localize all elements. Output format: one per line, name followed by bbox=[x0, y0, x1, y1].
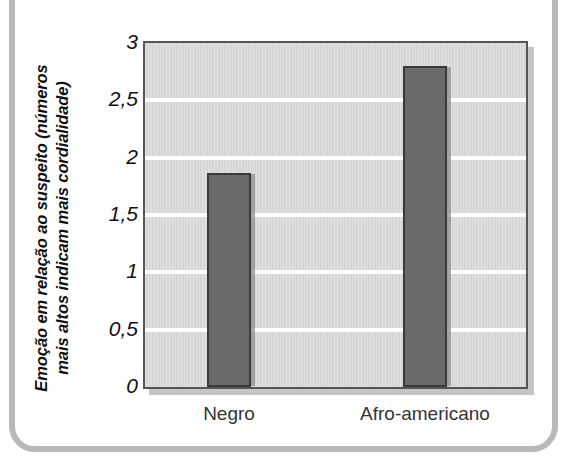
y-tick-label: 0 bbox=[92, 375, 138, 396]
x-tick-label-afro-americano: Afro-americano bbox=[360, 404, 490, 423]
x-tick-label-negro: Negro bbox=[203, 404, 255, 423]
y-tick-label: 3 bbox=[92, 31, 138, 52]
gridline-2-5 bbox=[145, 98, 526, 102]
y-axis-title-line-1: Emoção em relação ao suspeito (números bbox=[31, 64, 52, 391]
gridline-1 bbox=[145, 270, 526, 274]
y-tick-label: 2 bbox=[92, 145, 138, 166]
gridline-1-5 bbox=[145, 213, 526, 217]
bar-chart: Emoção em relação ao suspeito (números m… bbox=[0, 0, 572, 469]
y-tick-label: 0,5 bbox=[92, 317, 138, 338]
x-axis-tick-labels: Negro Afro-americano bbox=[143, 404, 528, 436]
gridline-0-5 bbox=[145, 328, 526, 332]
y-axis-title-line-2: mais altos indicam mais cordialidade) bbox=[52, 81, 73, 374]
bar-negro bbox=[207, 173, 251, 387]
bar-afro-americano bbox=[403, 66, 447, 387]
y-axis-tick-labels: 0 0,5 1 1,5 2 2,5 3 bbox=[92, 0, 138, 469]
y-axis-title: Emoção em relação ao suspeito (números m… bbox=[24, 28, 80, 428]
plot-area bbox=[143, 41, 528, 389]
y-tick-label: 1,5 bbox=[92, 203, 138, 224]
y-tick-label: 1 bbox=[92, 260, 138, 281]
y-tick-label: 2,5 bbox=[92, 88, 138, 109]
gridline-2 bbox=[145, 156, 526, 160]
